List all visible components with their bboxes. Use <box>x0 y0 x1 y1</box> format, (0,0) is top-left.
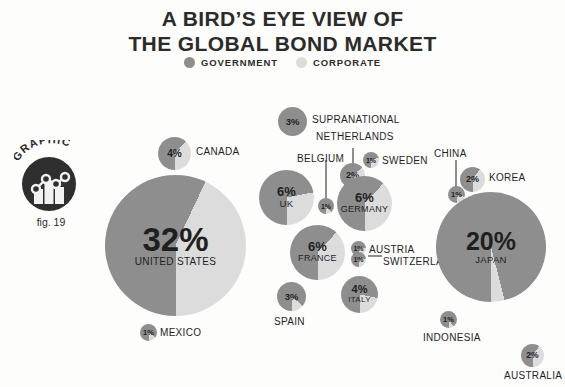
pie-label-spain: SPAIN <box>274 316 305 327</box>
pie-name-united-states: UNITED STATES <box>135 256 216 269</box>
pie-label-indonesia: INDONESIA <box>423 332 481 343</box>
pie-percent-united-states: 32% <box>142 223 208 256</box>
pie-italy: 4% ITALY <box>341 276 378 313</box>
pie-percent-austria: 1% <box>353 245 363 252</box>
pie-percent-uk: 6% <box>277 185 296 198</box>
pie-percent-italy: 4% <box>352 284 368 295</box>
pie-name-austria: AUSTRIA <box>369 244 414 255</box>
pie-label-supranational: SUPRANATIONAL <box>312 114 400 125</box>
pie-percent-sweden: 1% <box>366 157 376 164</box>
pie-name-china: CHINA <box>434 148 467 159</box>
pie-percent-spain: 3% <box>285 292 299 302</box>
pie-name-netherlands: NETHERLANDS <box>316 131 394 142</box>
pie-percent-mexico: 1% <box>143 329 154 337</box>
legend-swatch-corporate-icon <box>296 57 307 68</box>
pie-australia: 2% <box>521 344 544 367</box>
pie-label-korea: KOREA <box>489 172 526 183</box>
chart-legend: GOVERNMENT CORPORATE <box>0 57 565 68</box>
pie-name-australia: AUSTRALIA <box>504 370 562 381</box>
pie-name-supranational: SUPRANATIONAL <box>312 114 400 125</box>
legend-label-government: GOVERNMENT <box>201 57 278 68</box>
legend-item-corporate: CORPORATE <box>296 57 381 68</box>
pie-mexico: 1% <box>140 324 157 341</box>
title-line-2: THE GLOBAL BOND MARKET <box>0 31 565 56</box>
pie-percent-switzerland: 1% <box>353 256 363 263</box>
pie-korea: 2% <box>460 167 485 192</box>
legend-swatch-government-icon <box>184 57 195 68</box>
infographic-canvas: A BIRD’S EYE VIEW OF THE GLOBAL BOND MAR… <box>0 0 565 387</box>
pie-switzerland: 1% <box>351 252 366 267</box>
pie-percent-indonesia: 1% <box>443 316 454 324</box>
pie-canada: 4% <box>158 137 191 170</box>
pie-japan: 20% JAPAN <box>436 192 546 302</box>
pie-label-netherlands: NETHERLANDS <box>316 131 394 142</box>
pie-name-belgium: BELGIUM <box>297 153 344 164</box>
graphic-badge-figure: fig. 19 <box>8 216 94 228</box>
pie-name-uk: UK <box>280 198 294 210</box>
pie-percent-germany: 6% <box>355 191 374 204</box>
pie-percent-france: 6% <box>308 240 327 253</box>
pie-name-italy: ITALY <box>348 295 371 305</box>
pie-united-states: 32% UNITED STATES <box>105 175 246 316</box>
page-title: A BIRD’S EYE VIEW OF THE GLOBAL BOND MAR… <box>0 6 565 56</box>
pie-indonesia: 1% <box>440 311 457 328</box>
pie-name-korea: KOREA <box>489 172 526 183</box>
pie-supranational: 3% <box>278 107 307 136</box>
pie-spain: 3% <box>277 282 306 311</box>
pie-percent-canada: 4% <box>167 149 181 159</box>
pie-sweden: 1% <box>363 152 379 168</box>
title-line-1: A BIRD’S EYE VIEW OF <box>0 6 565 31</box>
pie-label-china: CHINA <box>434 148 467 159</box>
pie-label-austria: AUSTRIA <box>369 244 414 255</box>
pie-percent-australia: 2% <box>526 351 538 360</box>
pie-label-canada: CANADA <box>196 146 239 157</box>
graphic-badge: GRAPHIC fig. 19 <box>8 140 94 240</box>
pie-uk: 6% UK <box>259 170 314 225</box>
pie-percent-supranational: 3% <box>286 117 300 127</box>
pie-label-belgium: BELGIUM <box>297 153 344 164</box>
pie-germany: 6% GERMANY <box>337 176 392 231</box>
pie-percent-japan: 20% <box>466 229 516 254</box>
pie-name-germany: GERMANY <box>341 204 389 215</box>
pie-name-france: FRANCE <box>298 253 337 264</box>
leader-line-china <box>455 160 457 188</box>
bar-chart-line-icon <box>22 157 76 211</box>
pie-name-sweden: SWEDEN <box>382 155 428 166</box>
pie-percent-belgium: 1% <box>321 203 331 210</box>
pie-label-sweden: SWEDEN <box>382 155 428 166</box>
legend-item-government: GOVERNMENT <box>184 57 278 68</box>
pie-label-australia: AUSTRALIA <box>504 370 562 381</box>
pie-name-japan: JAPAN <box>475 254 506 266</box>
pie-percent-korea: 2% <box>466 175 479 184</box>
pie-name-indonesia: INDONESIA <box>423 332 481 343</box>
pie-france: 6% FRANCE <box>290 225 345 280</box>
pie-belgium: 1% <box>318 198 334 214</box>
pie-name-spain: SPAIN <box>274 316 305 327</box>
legend-label-corporate: CORPORATE <box>313 57 381 68</box>
pie-label-mexico: MEXICO <box>160 327 201 338</box>
pie-name-canada: CANADA <box>196 146 239 157</box>
pie-name-mexico: MEXICO <box>160 327 201 338</box>
leader-line-switzerland <box>368 255 382 257</box>
pie-percent-china: 1% <box>451 191 462 199</box>
